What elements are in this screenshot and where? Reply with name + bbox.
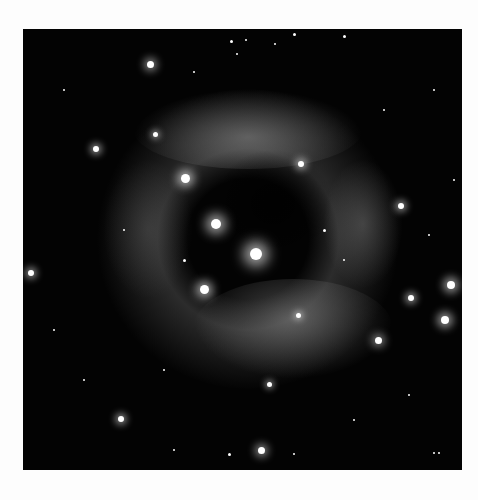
star [323,229,326,232]
nebula-arc-left [103,159,193,299]
star [298,161,304,167]
star [383,109,385,111]
star [293,453,295,455]
star [173,449,175,451]
star [433,89,435,91]
star [183,259,186,262]
star [83,379,85,381]
star [147,61,154,68]
star [267,382,272,387]
star [375,337,382,344]
star [118,416,124,422]
star [408,295,414,301]
star [441,316,449,324]
star [398,203,404,209]
star [93,146,99,152]
star [343,35,346,38]
star [438,452,440,454]
star [258,447,265,454]
star [245,39,247,41]
star [163,369,165,371]
star [453,179,455,181]
star [250,248,262,260]
star [53,329,55,331]
star [63,89,65,91]
star [123,229,125,231]
star [200,285,209,294]
star [428,234,430,236]
star [28,270,34,276]
nebula-photograph [23,29,462,470]
star [181,174,190,183]
star [433,452,435,454]
star [343,259,345,261]
star [447,281,455,289]
star [353,419,355,421]
star [193,71,195,73]
star [236,53,238,55]
star [228,453,231,456]
star [274,43,276,45]
star [293,33,296,36]
star [153,132,158,137]
star [296,313,301,318]
star [408,394,410,396]
star [211,219,221,229]
nebula-arc-bottom [193,279,393,379]
nebula-center-dark [213,149,333,259]
nebula-arc-right [323,159,403,289]
star [230,40,233,43]
